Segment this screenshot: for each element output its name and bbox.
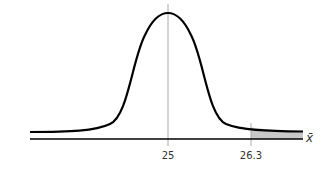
tick-label-mean: 25 (162, 150, 175, 161)
normal-curve-chart (0, 0, 333, 175)
density-curve (30, 13, 303, 132)
x-axis-label: x̄ (306, 131, 313, 145)
tick-label-cutoff: 26.3 (240, 150, 262, 161)
